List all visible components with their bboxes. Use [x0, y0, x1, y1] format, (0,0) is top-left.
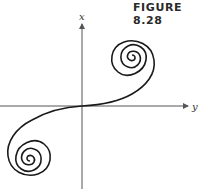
spiral-diagram: x y [0, 0, 209, 189]
curve-lower-spiral [8, 106, 82, 175]
vertical-axis-label: x [79, 11, 85, 22]
curve-upper-spiral [82, 41, 154, 106]
horizontal-axis-label: y [191, 101, 198, 112]
